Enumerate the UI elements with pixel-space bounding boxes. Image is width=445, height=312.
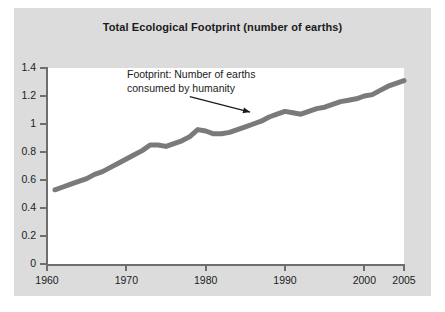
annotation-arrow-shaft [190, 97, 250, 112]
annotation-arrow-layer [14, 8, 431, 296]
chart-figure: Total Ecological Footprint (number of ea… [14, 8, 431, 296]
